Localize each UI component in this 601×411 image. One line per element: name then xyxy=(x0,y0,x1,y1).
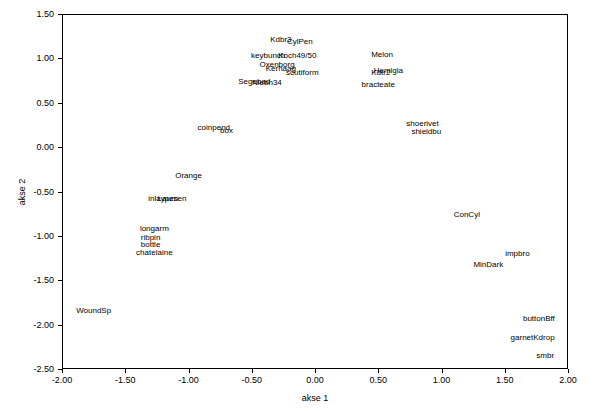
y-axis-title: akse 2 xyxy=(17,178,27,205)
x-tick-mark xyxy=(315,369,316,373)
data-point-label: Melon xyxy=(371,51,393,59)
y-tick-mark xyxy=(58,325,62,326)
y-tick-mark xyxy=(58,58,62,59)
y-tick-label: -0.50 xyxy=(33,187,54,197)
y-tick-mark xyxy=(58,369,62,370)
data-point-label: longarm xyxy=(140,225,169,233)
y-tick-label: 0.50 xyxy=(36,98,54,108)
y-tick-mark xyxy=(58,147,62,148)
data-point-label: bracteate xyxy=(362,81,395,89)
data-point-label: Kdtr2 xyxy=(371,69,390,77)
data-point-label: shieldbu xyxy=(411,128,441,136)
x-tick-mark xyxy=(62,369,63,373)
x-tick-label: -1.00 xyxy=(178,375,199,385)
x-tick-label: 2.00 xyxy=(559,375,577,385)
x-tick-label: 1.00 xyxy=(433,375,451,385)
data-point-label: garnetKdrop xyxy=(511,334,555,342)
x-tick-label: -0.50 xyxy=(241,375,262,385)
x-tick-label: 0.00 xyxy=(306,375,324,385)
y-tick-label: -2.00 xyxy=(33,320,54,330)
y-tick-mark xyxy=(58,236,62,237)
x-tick-mark xyxy=(125,369,126,373)
data-point-label: chatelaine xyxy=(136,249,172,257)
x-tick-label: 1.50 xyxy=(496,375,514,385)
x-tick-mark xyxy=(378,369,379,373)
data-point-label: impbro xyxy=(505,250,529,258)
data-point-label: smbr xyxy=(536,352,554,360)
data-point-label: WoundSp xyxy=(76,307,111,315)
y-tick-label: 1.00 xyxy=(36,53,54,63)
x-tick-label: -1.50 xyxy=(115,375,136,385)
x-tick-mark xyxy=(189,369,190,373)
data-point-label: MinDark xyxy=(473,261,503,269)
y-tick-mark xyxy=(58,103,62,104)
data-point-label: box xyxy=(220,127,233,135)
data-point-label: ConCyl xyxy=(454,211,480,219)
x-tick-label: -2.00 xyxy=(52,375,73,385)
scatter-plot-figure: -2.00-1.50-1.00-0.500.000.501.001.502.00… xyxy=(0,0,601,411)
data-point-label: Niebh34 xyxy=(252,79,282,87)
y-tick-mark xyxy=(58,192,62,193)
data-point-label: Laursen xyxy=(158,195,187,203)
y-tick-mark xyxy=(58,14,62,15)
y-tick-mark xyxy=(58,280,62,281)
data-point-label: scutiform xyxy=(286,69,318,77)
x-axis-title: akse 1 xyxy=(302,393,329,403)
x-tick-mark xyxy=(442,369,443,373)
y-tick-label: 1.50 xyxy=(36,9,54,19)
data-point-label: Koch49/50 xyxy=(278,52,316,60)
x-tick-mark xyxy=(252,369,253,373)
y-tick-label: 0.00 xyxy=(36,142,54,152)
data-point-label: Orange xyxy=(175,172,202,180)
data-point-label: buttonBff xyxy=(523,315,555,323)
y-tick-label: -1.50 xyxy=(33,275,54,285)
x-tick-mark xyxy=(568,369,569,373)
data-point-label: CylPen xyxy=(287,38,313,46)
y-tick-label: -2.50 xyxy=(33,364,54,374)
plot-area xyxy=(62,14,568,369)
x-tick-label: 0.50 xyxy=(369,375,387,385)
x-tick-mark xyxy=(505,369,506,373)
y-tick-label: -1.00 xyxy=(33,231,54,241)
